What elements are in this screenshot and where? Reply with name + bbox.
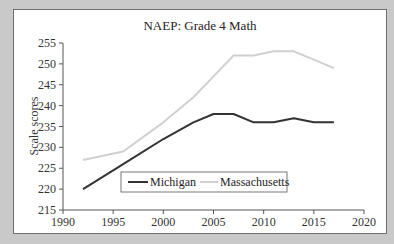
x-tick-label: 2015 bbox=[302, 215, 326, 229]
legend-label-michigan: Michigan bbox=[150, 175, 196, 189]
y-tick-label: 230 bbox=[38, 140, 56, 154]
x-tick-label: 1990 bbox=[51, 215, 75, 229]
series-line-massachusetts bbox=[83, 51, 334, 160]
data-lines bbox=[83, 51, 334, 189]
legend-label-massachusetts: Massachusetts bbox=[220, 175, 290, 189]
x-tick-label: 2010 bbox=[252, 215, 276, 229]
y-tick-label: 225 bbox=[38, 161, 56, 175]
x-tick-label: 2005 bbox=[202, 215, 226, 229]
y-tick-label: 250 bbox=[38, 57, 56, 71]
y-tick-label: 235 bbox=[38, 120, 56, 134]
x-tick-label: 1995 bbox=[101, 215, 125, 229]
y-tick-label: 245 bbox=[38, 78, 56, 92]
line-chart: NAEP: Grade 4 Math Scale scores 21522022… bbox=[0, 0, 394, 244]
x-tick-label: 2020 bbox=[352, 215, 376, 229]
legend: Michigan Massachusetts bbox=[121, 172, 290, 192]
y-tick-label: 240 bbox=[38, 99, 56, 113]
x-tick-label: 2000 bbox=[151, 215, 175, 229]
chart-title: NAEP: Grade 4 Math bbox=[143, 18, 257, 33]
y-tick-label: 220 bbox=[38, 182, 56, 196]
y-tick-label: 255 bbox=[38, 36, 56, 50]
